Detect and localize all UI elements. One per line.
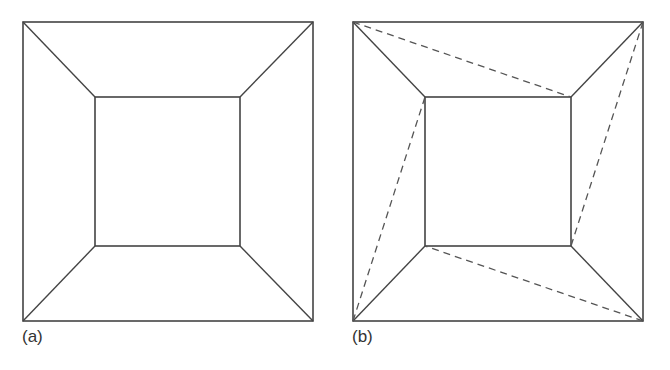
connector-bottom-right — [240, 246, 313, 321]
panel-a-drawing — [23, 22, 313, 321]
connector-top-right — [571, 22, 643, 97]
dashed-diagonal-2 — [425, 246, 643, 321]
connector-top-left — [23, 22, 95, 97]
connector-bottom-left — [23, 246, 95, 321]
panel-a-label: (a) — [22, 327, 43, 347]
connector-top-left — [353, 22, 425, 97]
dashed-diagonal-3 — [353, 97, 425, 321]
panel-b-label: (b) — [352, 327, 373, 347]
connector-bottom-right — [571, 246, 643, 321]
connector-bottom-left — [353, 246, 425, 321]
dashed-diagonal-1 — [571, 22, 643, 246]
panel-b-drawing — [353, 22, 643, 321]
inner-square — [425, 97, 571, 246]
inner-square — [95, 97, 240, 246]
connector-top-right — [240, 22, 313, 97]
figure-canvas — [0, 0, 670, 370]
dashed-diagonal-0 — [353, 22, 571, 97]
